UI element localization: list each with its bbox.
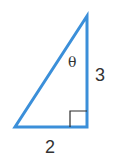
horizontal-side-label: 2 — [45, 137, 55, 157]
right-triangle-diagram: θ 3 2 — [0, 0, 121, 162]
vertical-side-label: 3 — [95, 65, 105, 85]
right-angle-marker — [70, 111, 87, 127]
angle-theta-label: θ — [68, 54, 76, 70]
triangle-shape — [15, 16, 87, 127]
